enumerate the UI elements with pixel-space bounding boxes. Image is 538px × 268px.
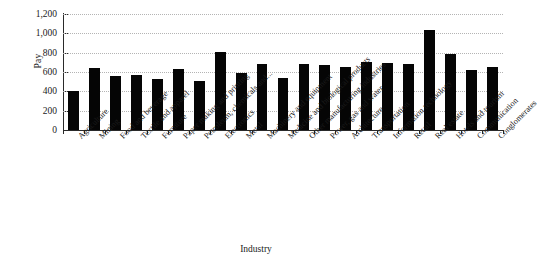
x-axis-tick-mark — [63, 130, 64, 134]
bar — [68, 91, 79, 130]
x-axis-category-label: Furniture — [161, 135, 167, 141]
y-axis-tick-label: 600 — [11, 68, 57, 78]
x-axis-category-label: Agriculture — [77, 135, 83, 141]
y-axis-tick-label: 800 — [11, 49, 57, 59]
x-axis-category-label: Electronics — [224, 135, 230, 141]
x-axis-category-label: Other manufacturing industries — [308, 135, 314, 141]
bar-series — [63, 14, 503, 130]
x-axis-category-label: Information technology — [392, 135, 398, 141]
x-axis-category-label: Mining — [98, 135, 104, 141]
y-axis-tick-label: 0 — [11, 126, 57, 136]
x-axis-category-label: Real estate — [434, 135, 440, 141]
x-axis-category-label: Communication — [476, 135, 482, 141]
y-axis-tick-label: 200 — [11, 107, 57, 117]
x-axis-category-label: Machinery and equipment — [266, 135, 272, 141]
x-axis-category-label: Medicine and biological products — [287, 135, 293, 141]
y-axis-tick-label: 400 — [11, 87, 57, 97]
y-axis-tick-labels: 1,2001,0008006004002000 — [7, 14, 57, 130]
y-axis-tick-label: 1,200 — [11, 10, 57, 20]
x-axis-category-label: Paper making and printing — [182, 135, 188, 141]
x-axis-category-label: Retail — [413, 135, 419, 141]
x-axis-category-label: Architecture — [350, 135, 356, 141]
x-axis-category-label: Hotels and tourism — [455, 135, 461, 141]
bar — [424, 30, 435, 130]
x-axis-category-labels: AgricultureMiningFood and beverageTextil… — [63, 135, 503, 235]
x-axis-category-label: Petroleum, chemicals and... — [203, 135, 209, 141]
x-axis-title: Industry — [0, 244, 512, 254]
x-axis-category-label: Transportation — [371, 135, 377, 141]
x-axis-category-label: Power, gas and water — [329, 135, 335, 141]
x-axis-category-label: Textile and apparel — [140, 135, 146, 141]
x-axis-category-label: Conglomerates — [497, 135, 503, 141]
y-axis-tick-label: 1,000 — [11, 29, 57, 39]
x-axis-category-label: Food and beverage — [119, 135, 125, 141]
x-axis-category-label: Metal — [245, 135, 251, 141]
